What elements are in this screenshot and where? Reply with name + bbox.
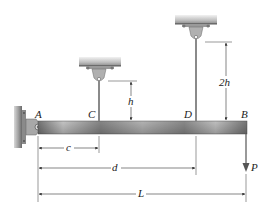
ceiling-support-d [175, 15, 217, 39]
label-l-dim: L [137, 187, 144, 199]
beam-ab [38, 121, 247, 134]
label-2h: 2h [219, 76, 231, 88]
ceiling-support-c [79, 57, 121, 81]
label-d-dim: d [112, 161, 118, 173]
dimension-2h: 2h [205, 42, 234, 120]
label-a: A [34, 108, 42, 120]
dimension-d: d [39, 161, 195, 173]
dimension-h: h [108, 81, 137, 120]
dimension-l: L [39, 187, 245, 199]
beam-diagram: h 2h A C D B c d L P [0, 0, 267, 211]
label-d: D [183, 108, 192, 120]
label-b: B [241, 108, 248, 120]
label-h: h [128, 95, 134, 107]
wall-support [14, 106, 26, 148]
label-p: P [250, 161, 258, 173]
dimension-c: c [39, 141, 98, 153]
label-c-dim: c [66, 141, 71, 153]
label-c: C [88, 108, 96, 120]
load-p-arrow: P [243, 134, 259, 173]
